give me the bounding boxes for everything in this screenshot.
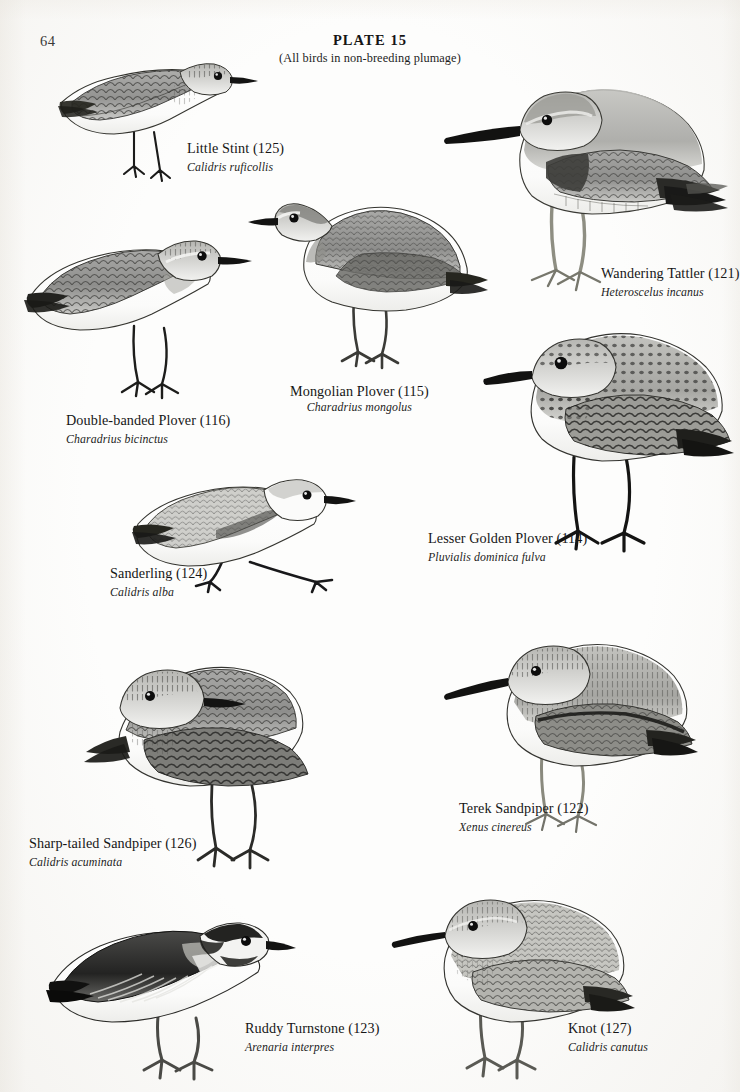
species-common-name: Knot (127)	[568, 1020, 632, 1036]
caption-sanderling: Sanderling (124) Calidris alba	[110, 564, 207, 600]
species-common-name: Sanderling (124)	[110, 565, 207, 581]
species-common-name: Sharp-tailed Sandpiper (126)	[29, 835, 197, 851]
plate-page: 64 PLATE 15 (All birds in non-breeding p…	[0, 0, 740, 1092]
caption-knot: Knot (127) Calidris canutus	[568, 1019, 648, 1055]
caption-lesser-golden-plover: Lesser Golden Plover (114) Pluvialis dom…	[428, 529, 587, 565]
caption-mongolian-plover: Mongolian Plover (115) Charadrius mongol…	[290, 383, 429, 415]
species-scientific-name: Pluvialis dominica fulva	[428, 550, 546, 564]
caption-wandering-tattler: Wandering Tattler (121) Heteroscelus inc…	[601, 264, 740, 300]
caption-terek-sandpiper: Terek Sandpiper (122) Xenus cinereus	[459, 799, 589, 835]
species-scientific-name: Charadrius mongolus	[290, 400, 429, 415]
species-scientific-name: Arenaria interpres	[245, 1040, 334, 1054]
species-scientific-name: Calidris alba	[110, 585, 174, 599]
species-common-name: Little Stint (125)	[187, 140, 284, 156]
species-scientific-name: Xenus cinereus	[459, 820, 532, 834]
caption-ruddy-turnstone: Ruddy Turnstone (123) Arenaria interpres	[245, 1019, 380, 1055]
species-common-name: Mongolian Plover (115)	[290, 383, 429, 400]
species-common-name: Terek Sandpiper (122)	[459, 800, 589, 816]
species-common-name: Double-banded Plover (116)	[66, 412, 230, 428]
caption-little-stint: Little Stint (125) Calidris ruficollis	[187, 139, 284, 175]
species-scientific-name: Calidris ruficollis	[187, 160, 273, 174]
species-scientific-name: Calidris canutus	[568, 1040, 648, 1054]
caption-double-banded-plover: Double-banded Plover (116) Charadrius bi…	[66, 411, 230, 447]
species-common-name: Ruddy Turnstone (123)	[245, 1020, 380, 1036]
species-common-name: Lesser Golden Plover (114)	[428, 530, 587, 546]
bird-illustration-lesser-golden-plover	[448, 305, 728, 555]
species-scientific-name: Heteroscelus incanus	[601, 285, 704, 299]
species-scientific-name: Calidris acuminata	[29, 855, 122, 869]
caption-sharp-tailed-sandpiper: Sharp-tailed Sandpiper (126) Calidris ac…	[29, 834, 197, 870]
bird-illustration-double-banded-plover	[18, 222, 258, 402]
species-common-name: Wandering Tattler (121)	[601, 265, 740, 281]
species-scientific-name: Charadrius bicinctus	[66, 432, 168, 446]
bird-illustration-ruddy-turnstone	[42, 912, 302, 1082]
